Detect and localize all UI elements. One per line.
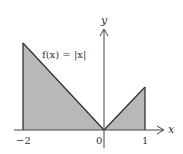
tick-label-0: 0 — [96, 135, 102, 146]
tick-label-1: 1 — [142, 135, 148, 146]
x-axis-label: x — [168, 123, 175, 136]
abs-value-area-diagram: y x f(x) = |x| −2 0 1 — [0, 0, 183, 154]
tick-label-neg2: −2 — [16, 135, 31, 146]
function-label: f(x) = |x| — [42, 49, 86, 61]
y-axis-label: y — [100, 14, 108, 27]
